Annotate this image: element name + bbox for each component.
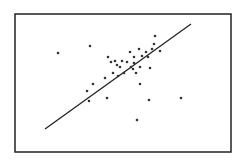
data-point xyxy=(123,72,126,75)
data-point xyxy=(135,72,138,75)
data-point xyxy=(117,75,120,78)
data-point xyxy=(136,119,139,122)
data-point xyxy=(154,35,157,38)
data-point xyxy=(132,68,135,71)
data-point xyxy=(114,60,117,63)
data-point xyxy=(153,43,156,46)
data-point xyxy=(116,64,119,67)
data-point xyxy=(121,60,124,63)
data-point xyxy=(89,45,92,48)
data-point xyxy=(147,56,150,59)
data-point xyxy=(130,66,133,69)
data-point xyxy=(151,48,154,51)
data-point xyxy=(159,50,162,53)
data-point xyxy=(138,48,141,51)
data-point xyxy=(107,56,110,59)
data-point xyxy=(119,66,122,69)
data-point xyxy=(57,52,60,55)
data-point xyxy=(180,97,183,100)
data-point xyxy=(139,83,142,86)
data-point xyxy=(139,66,142,69)
data-point xyxy=(133,56,136,59)
data-point xyxy=(145,51,148,54)
data-point xyxy=(92,83,95,86)
data-point xyxy=(86,90,89,93)
data-point xyxy=(88,100,91,103)
scatter-plot xyxy=(0,0,247,164)
data-point xyxy=(110,61,113,64)
data-point xyxy=(149,67,152,70)
data-point xyxy=(104,77,107,80)
data-point xyxy=(129,51,132,54)
plot-frame xyxy=(15,14,231,152)
data-point xyxy=(106,97,109,100)
data-points xyxy=(57,35,183,122)
data-point xyxy=(126,61,129,64)
data-point xyxy=(133,62,136,65)
data-point xyxy=(141,55,144,58)
data-point xyxy=(148,99,151,102)
data-point xyxy=(112,72,115,75)
